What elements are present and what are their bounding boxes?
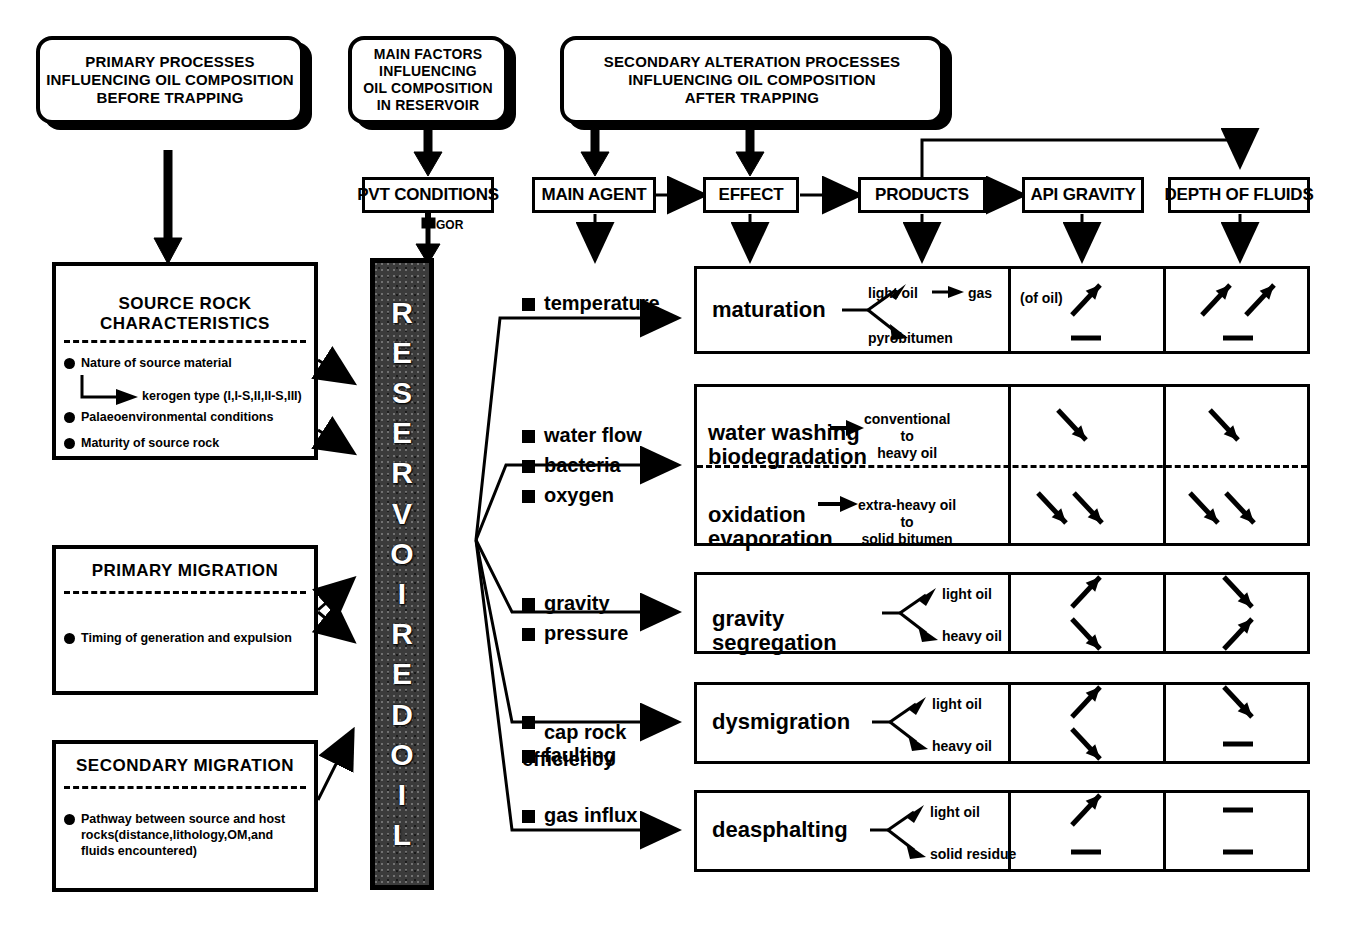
reservoir-letter: D [391, 695, 413, 735]
agent-temperature: temperature [522, 290, 660, 317]
product-solid-residue-row5: solid residue [930, 846, 1016, 863]
reservoir-letter: O [390, 735, 413, 775]
agent-faulting: faulting [522, 742, 616, 769]
result-conventional-heavy-oil-text: conventional to heavy oil [864, 411, 950, 461]
panel-secondary-migration-title: SECONDARY MIGRATION [56, 744, 314, 776]
gor-text: GOR [436, 218, 463, 232]
column-header-effect: EFFECT [703, 177, 799, 213]
bullet-icon [64, 633, 75, 644]
header-primary-processes-label: PRIMARY PROCESSES INFLUENCING OIL COMPOS… [46, 53, 294, 108]
bullet-icon [64, 358, 75, 369]
agent-gas-influx-label: gas influx [544, 804, 637, 826]
reservoir-letter: R [391, 453, 413, 493]
agent-pressure-label: pressure [544, 622, 629, 644]
product-light-oil-row5-text: light oil [930, 804, 980, 820]
list-item-label: Palaeoenvironmental conditions [81, 410, 273, 424]
column-header-depth-label: DEPTH OF FLUIDS [1164, 185, 1313, 205]
product-light-oil-row3-text: light oil [942, 586, 992, 602]
result-extra-heavy-solid-bitumen-text: extra-heavy oil to solid bitumen [858, 497, 956, 547]
effect-dysmigration-text: dysmigration [712, 709, 850, 734]
kerogen-branch: kerogen type (I,I-S,II,II-S,III) [64, 375, 304, 409]
panel-source-rock-title: SOURCE ROCK CHARACTERISTICS [56, 266, 314, 334]
product-gas-row1: gas [968, 285, 992, 302]
cell-divider-row3-depth [1163, 572, 1166, 654]
effect-oxidation-text: oxidation evaporation [708, 502, 833, 552]
cell-divider-row2-api [1008, 384, 1011, 546]
product-heavy-oil-row3-text: heavy oil [942, 628, 1002, 644]
product-gas-row1-text: gas [968, 285, 992, 301]
list-item-label: Pathway between source and host rocks(di… [81, 811, 285, 859]
agent-gas-influx: gas influx [522, 802, 637, 829]
panel-primary-migration-title: PRIMARY MIGRATION [56, 549, 314, 581]
cell-divider-row2-depth [1163, 384, 1166, 546]
effect-water-washing-label: water washing biodegradation [708, 396, 867, 470]
reservoir-letter: O [390, 534, 413, 574]
list-item: Pathway between source and host rocks(di… [64, 811, 306, 859]
product-heavy-oil-row3: heavy oil [942, 628, 1002, 645]
bullet-icon [64, 412, 75, 423]
reservoir-letter: L [393, 815, 411, 855]
agent-bacteria-label: bacteria [544, 454, 621, 476]
bullet-icon [64, 814, 75, 825]
square-bullet-icon [522, 810, 535, 823]
agent-gravity-label: gravity [544, 592, 610, 614]
agent-faulting-label: faulting [544, 744, 616, 766]
kerogen-type-label: kerogen type (I,I-S,II,II-S,III) [142, 388, 302, 404]
agent-pressure: pressure [522, 620, 629, 647]
list-item: Palaeoenvironmental conditions [64, 409, 304, 425]
column-header-depth-of-fluids: DEPTH OF FLUIDS [1168, 177, 1310, 213]
effect-maturation-label: maturation [712, 298, 826, 323]
list-item-label: Maturity of source rock [81, 436, 219, 450]
list-item-label: Nature of source material [81, 356, 232, 370]
header-secondary-processes: SECONDARY ALTERATION PROCESSES INFLUENCI… [560, 36, 944, 124]
effect-gravity-segregation-label: gravity segregation [712, 582, 837, 656]
reservoir-letter: S [392, 373, 412, 413]
header-main-factors-label: MAIN FACTORS INFLUENCING OIL COMPOSITION… [363, 46, 493, 114]
product-solid-residue-row5-text: solid residue [930, 846, 1016, 862]
square-bullet-icon [522, 298, 535, 311]
agent-water-flow-label: water flow [544, 424, 642, 446]
effect-deasphalting-label: deasphalting [712, 818, 848, 843]
reservoired-oil-letters: RESERVOIREDOIL [375, 263, 429, 885]
list-item-label: Timing of generation and expulsion [81, 631, 292, 645]
product-light-oil-row3: light oil [942, 586, 992, 603]
diagram-canvas: PRIMARY PROCESSES INFLUENCING OIL COMPOS… [0, 0, 1361, 940]
column-header-main-agent: MAIN AGENT [532, 177, 656, 213]
panel-secondary-migration: SECONDARY MIGRATION Pathway between sour… [52, 740, 318, 892]
square-bullet-icon [522, 490, 535, 503]
bullet-icon [64, 438, 75, 449]
reservoir-letter: I [398, 574, 406, 614]
column-header-api-gravity: API GRAVITY [1022, 177, 1144, 213]
header-secondary-processes-label: SECONDARY ALTERATION PROCESSES INFLUENCI… [604, 53, 901, 108]
reservoir-letter: E [392, 333, 412, 373]
agent-oxygen-label: oxygen [544, 484, 614, 506]
product-light-oil-row5: light oil [930, 804, 980, 821]
square-bullet-icon [522, 750, 535, 763]
result-extra-heavy-solid-bitumen: extra-heavy oil to solid bitumen [858, 480, 956, 548]
cell-divider-row4-depth [1163, 682, 1166, 764]
reservoir-letter: E [392, 413, 412, 453]
column-header-pvt-conditions: PVT CONDITIONS [362, 177, 494, 213]
product-pyrobitumen-row1-text: pyrobitumen [868, 330, 953, 346]
cell-divider-row5-api [1008, 790, 1011, 872]
reservoir-letter: I [398, 775, 406, 815]
square-bullet-icon [522, 430, 535, 443]
gor-label: GOR [436, 218, 463, 232]
list-item: Maturity of source rock [64, 435, 304, 451]
square-bullet-icon [522, 628, 535, 641]
api-note-of-oil: (of oil) [1020, 290, 1063, 307]
effect-water-washing-text: water washing biodegradation [708, 420, 867, 470]
column-header-effect-label: EFFECT [719, 185, 784, 205]
column-header-main-agent-label: MAIN AGENT [541, 185, 646, 205]
reservoir-letter: R [391, 614, 413, 654]
square-bullet-icon [522, 716, 535, 729]
agent-oxygen: oxygen [522, 482, 614, 509]
product-heavy-oil-row4-text: heavy oil [932, 738, 992, 754]
effect-maturation-text: maturation [712, 297, 826, 322]
product-heavy-oil-row4: heavy oil [932, 738, 992, 755]
panel-source-rock-title-text: SOURCE ROCK CHARACTERISTICS [100, 294, 270, 333]
reservoir-letter: R [391, 293, 413, 333]
effect-oxidation-label: oxidation evaporation [708, 478, 833, 552]
column-header-products-label: PRODUCTS [875, 185, 969, 205]
effect-dysmigration-label: dysmigration [712, 710, 850, 735]
